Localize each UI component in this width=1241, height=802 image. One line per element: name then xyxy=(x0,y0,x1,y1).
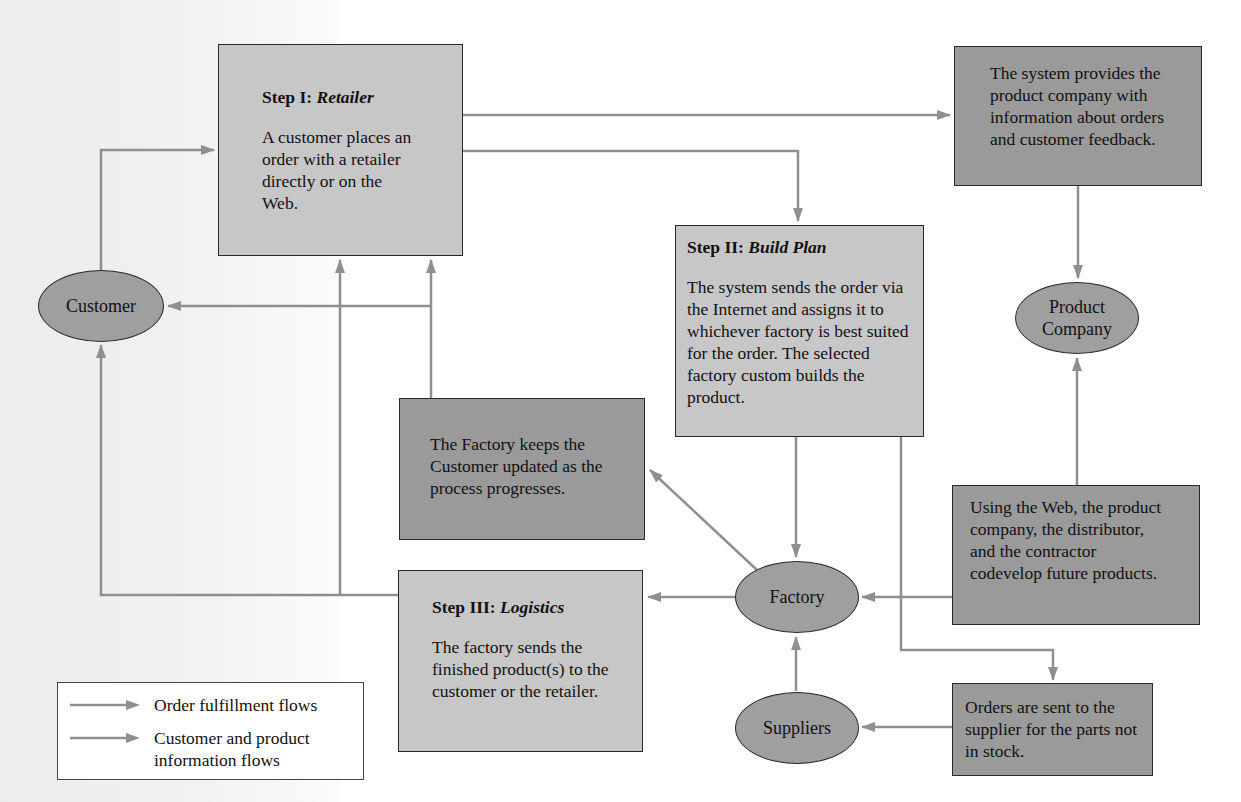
arrow-icon xyxy=(70,731,140,745)
step1-retailer-box: Step I: Retailer A customer places an or… xyxy=(218,44,463,256)
arrow-icon xyxy=(70,698,140,712)
system-info-text: The system provides the product company … xyxy=(990,62,1175,150)
orders-box: Orders are sent to the supplier for the … xyxy=(952,683,1153,776)
step3-title: Step III: Logistics xyxy=(432,596,642,618)
step1-title: Step I: Retailer xyxy=(262,86,462,108)
factory-update-text: The Factory keeps the Customer updated a… xyxy=(430,433,610,499)
suppliers-node: Suppliers xyxy=(735,692,859,764)
factory-node: Factory xyxy=(735,561,859,633)
step2-text: The system sends the order via the Inter… xyxy=(687,276,922,408)
step3-text: The factory sends the finished product(s… xyxy=(432,636,617,702)
step2-build-plan-box: Step II: Build Plan The system sends the… xyxy=(675,225,924,437)
step1-text: A customer places an order with a retail… xyxy=(262,126,422,214)
codevelop-box: Using the Web, the product company, the … xyxy=(952,485,1200,625)
customer-node: Customer xyxy=(38,270,164,342)
factory-update-box: The Factory keeps the Customer updated a… xyxy=(399,398,645,540)
legend-item-order-fulfillment: Order fulfillment flows xyxy=(70,694,317,716)
legend: Order fulfillment flows Customer and pro… xyxy=(57,682,364,780)
legend-item-information: Customer and product information flows xyxy=(70,727,339,771)
step2-title: Step II: Build Plan xyxy=(687,236,923,258)
step3-logistics-box: Step III: Logistics The factory sends th… xyxy=(398,570,643,752)
codevelop-text: Using the Web, the product company, the … xyxy=(970,496,1170,584)
system-info-box: The system provides the product company … xyxy=(954,46,1202,186)
orders-text: Orders are sent to the supplier for the … xyxy=(965,696,1150,762)
product-company-node: Product Company xyxy=(1015,282,1139,354)
